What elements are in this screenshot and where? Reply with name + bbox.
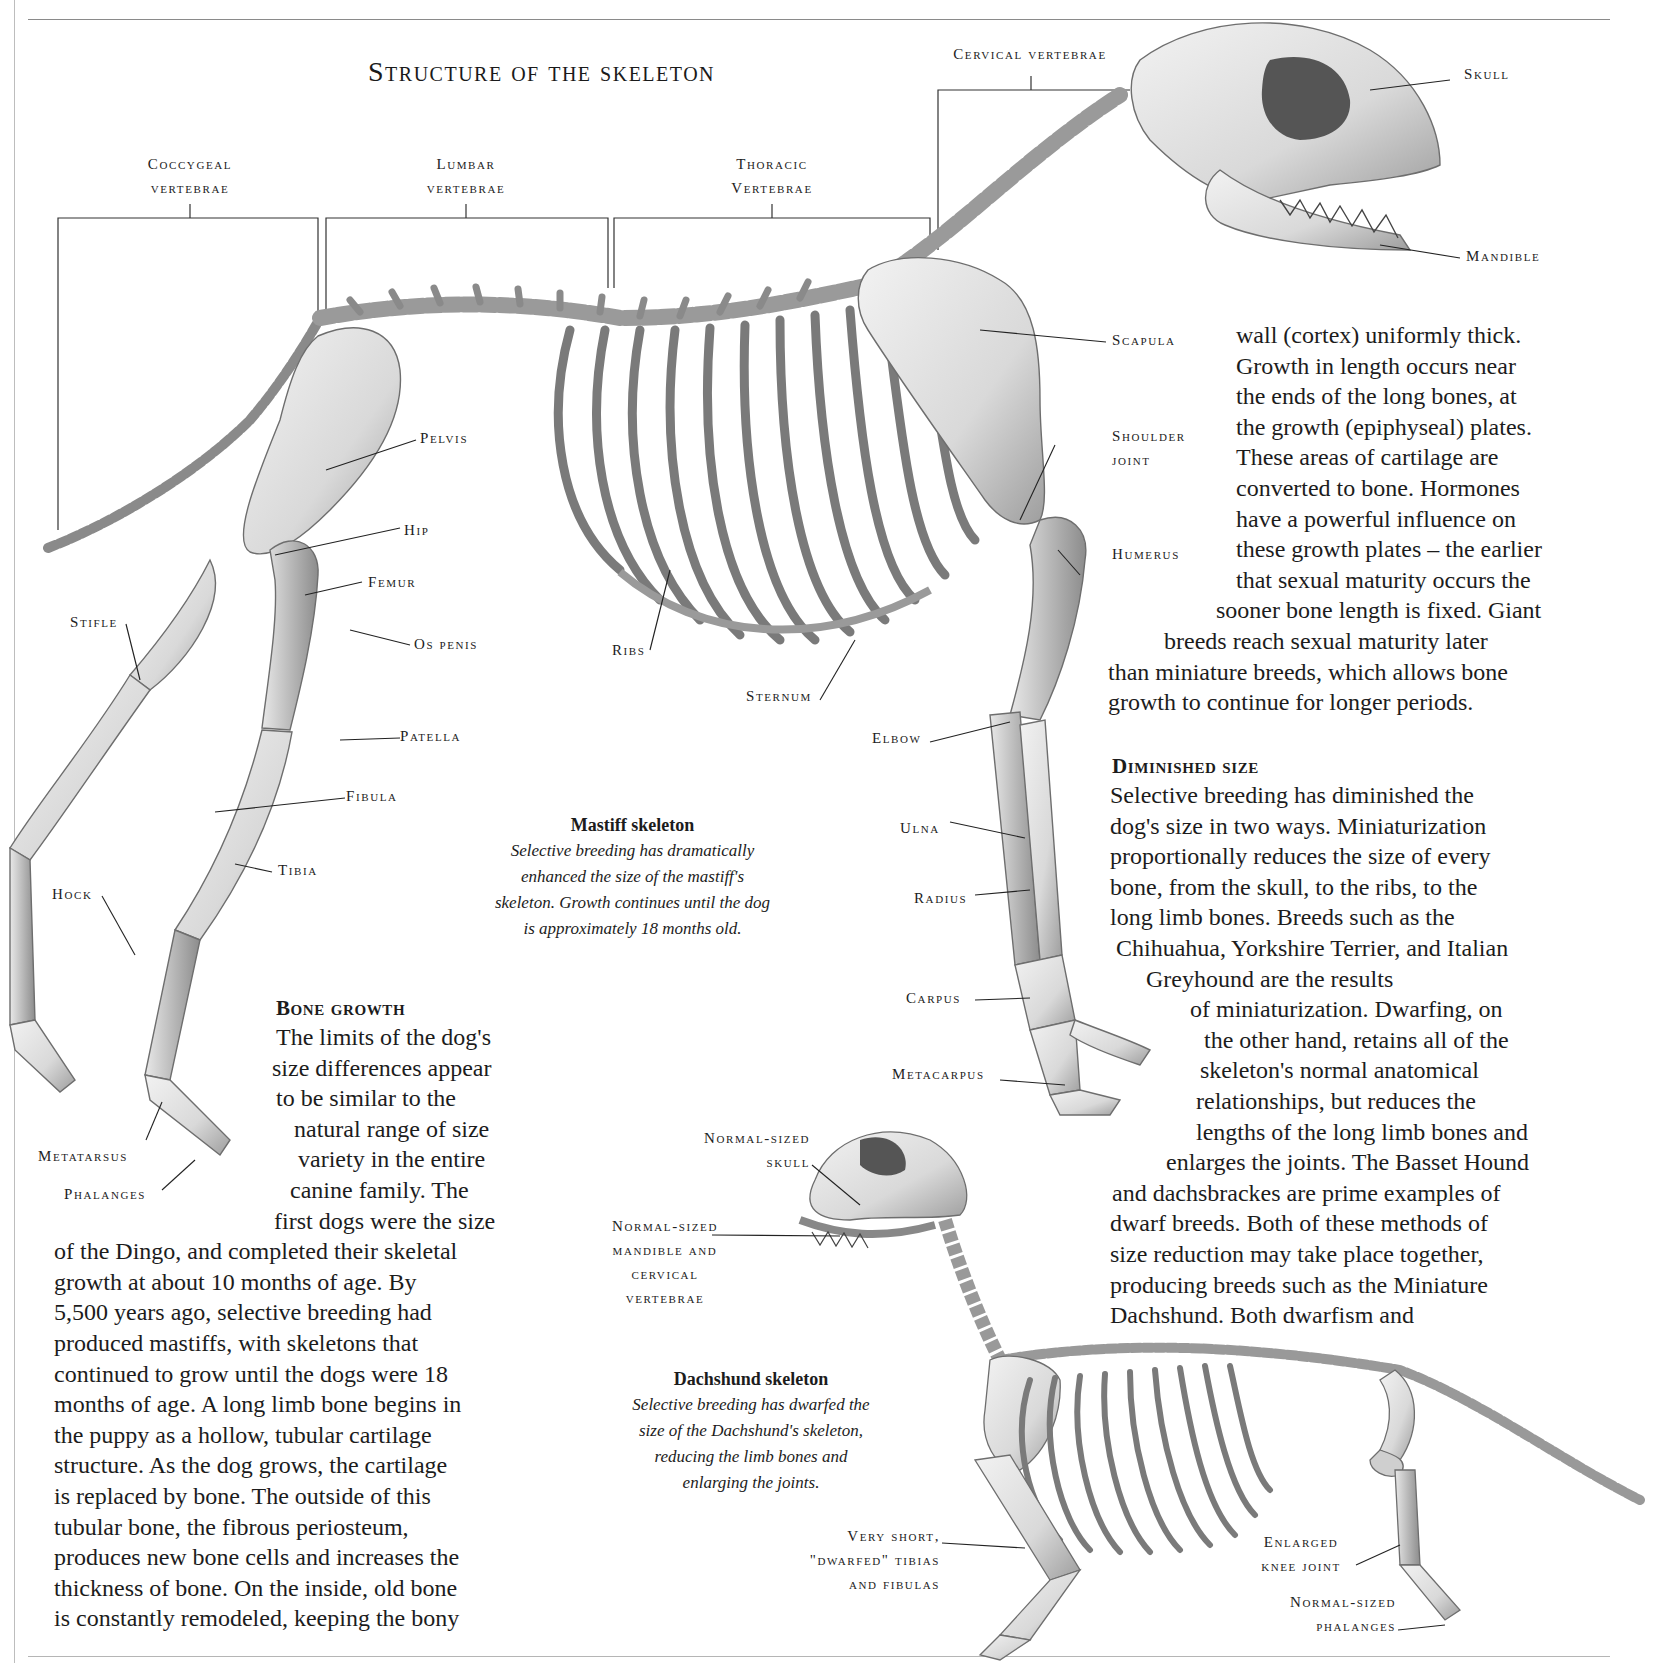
label-enlarged-knee-joint: Enlarged knee joint	[1236, 1530, 1366, 1578]
bone-growth-heading: Bone growth	[276, 996, 405, 1021]
label-sternum: Sternum	[746, 684, 812, 708]
label-dwarfed-tibias: Very short, "dwarfed" tibias and fibulas	[760, 1524, 940, 1596]
bone-growth-text: The limits of the dog's size differences…	[54, 1022, 495, 1634]
label-hock: Hock	[52, 882, 92, 906]
label-ribs: Ribs	[612, 638, 646, 662]
label-cervical-vertebrae: Cervical vertebrae	[930, 42, 1130, 66]
label-tibia: Tibia	[278, 858, 318, 882]
label-radius: Radius	[914, 886, 967, 910]
mastiff-caption: Mastiff skeleton Selective breeding has …	[440, 812, 825, 942]
label-fibula: Fibula	[346, 784, 398, 808]
label-hip: Hip	[404, 518, 429, 542]
label-lumbar-vertebrae: Lumbar vertebrae	[396, 152, 536, 200]
label-coccygeal-vertebrae: Coccygeal vertebrae	[120, 152, 260, 200]
label-normal-sized-phalanges: Normal-sized phalanges	[1236, 1590, 1396, 1638]
diminished-size-heading: Diminished size	[1112, 754, 1259, 779]
label-skull: Skull	[1464, 62, 1510, 86]
label-elbow: Elbow	[872, 726, 922, 750]
label-normal-sized-mandible: Normal-sized mandible and cervical verte…	[580, 1214, 750, 1310]
label-thoracic-vertebrae: Thoracic Vertebrae	[702, 152, 842, 200]
label-metacarpus: Metacarpus	[892, 1062, 985, 1086]
diminished-size-text: Selective breeding has diminished the do…	[1110, 780, 1529, 1331]
mastiff-caption-title: Mastiff skeleton	[440, 812, 825, 838]
label-stifle: Stifle	[70, 610, 118, 634]
label-pelvis: Pelvis	[420, 426, 468, 450]
label-os-penis: Os penis	[414, 632, 478, 656]
label-normal-sized-skull: Normal-sized skull	[640, 1126, 810, 1174]
continued-bone-growth-text: wall (cortex) uniformly thick. Growth in…	[1108, 320, 1542, 718]
label-patella: Patella	[400, 724, 461, 748]
label-femur: Femur	[368, 570, 416, 594]
dachshund-caption-title: Dachshund skeleton	[596, 1366, 906, 1392]
label-mandible: Mandible	[1466, 244, 1540, 268]
label-ulna: Ulna	[900, 816, 940, 840]
label-carpus: Carpus	[906, 986, 961, 1010]
dachshund-caption: Dachshund skeleton Selective breeding ha…	[596, 1366, 906, 1496]
